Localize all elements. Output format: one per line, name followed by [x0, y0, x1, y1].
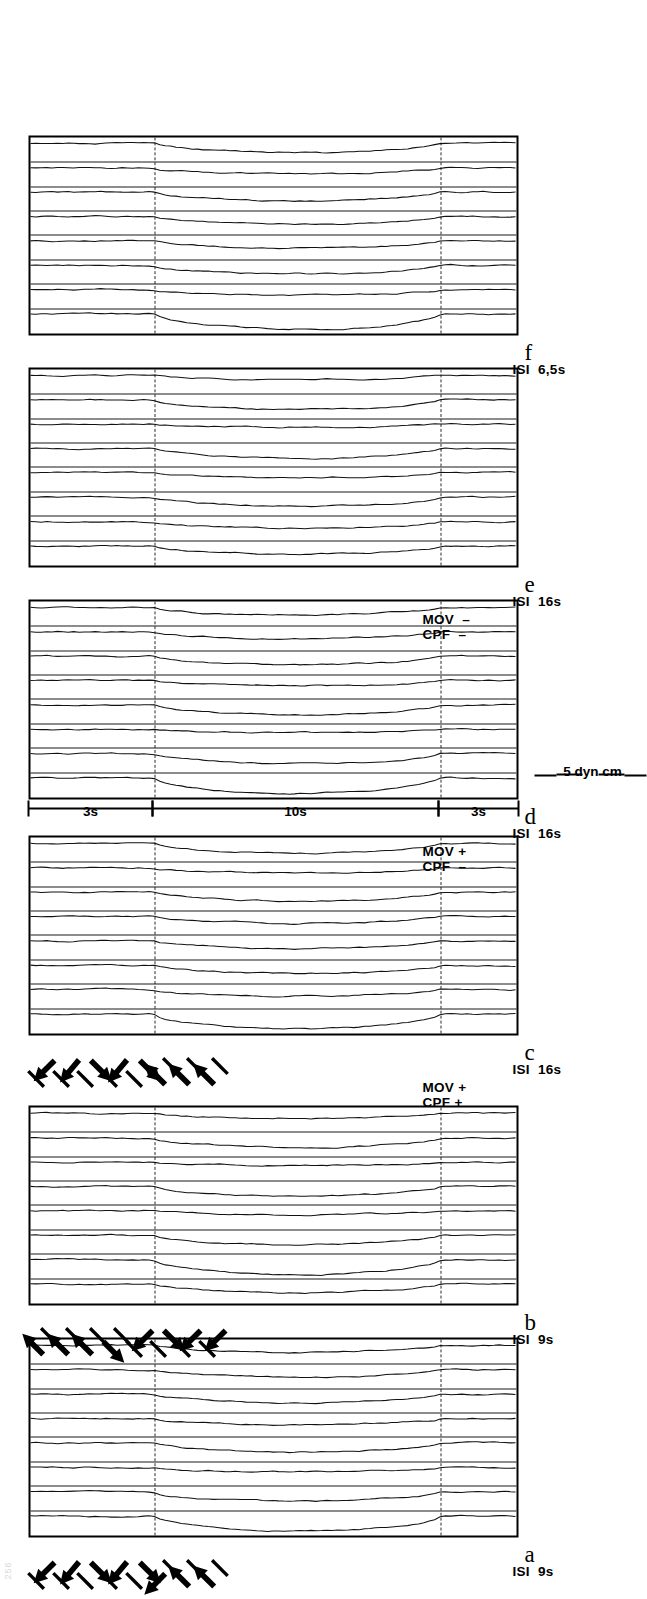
- time-mark-post-cap: [517, 800, 519, 816]
- time-mark-post-label: 3s: [470, 803, 485, 818]
- time-mark-stim-cap: [151, 800, 153, 816]
- force-scale-label: 5 dyn cm: [563, 763, 622, 778]
- time-mark-pre-cap: [27, 800, 29, 816]
- time-mark-stim-label: 10s: [283, 803, 306, 818]
- force-calibration-arrow-up: [534, 774, 556, 776]
- time-mark-post-cap: [437, 800, 439, 816]
- time-mark-pre-label: 3s: [82, 803, 97, 818]
- force-calibration-arrow-down: [624, 774, 646, 776]
